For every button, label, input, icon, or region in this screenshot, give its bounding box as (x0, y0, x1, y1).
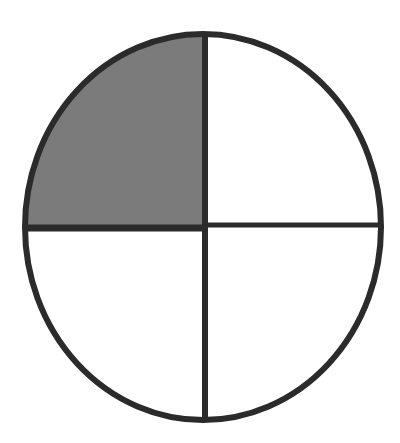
fraction-diagram (0, 0, 400, 443)
fraction-circle-svg (0, 0, 400, 443)
